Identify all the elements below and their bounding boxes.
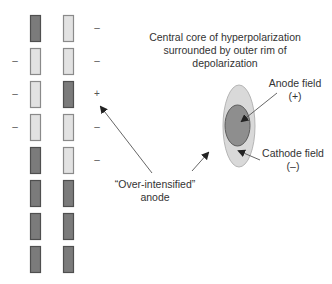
arrow-to-anode-field-ellipse xyxy=(192,153,208,171)
minus-sign-label: – xyxy=(92,23,102,33)
electrode-left-column-7-dark xyxy=(31,214,41,240)
electrode-left-column-5-dark xyxy=(31,148,41,174)
cathode-field-sign: (–) xyxy=(254,160,332,173)
electrode-left-column-6-dark xyxy=(31,181,41,207)
electrode-right-column-6-dark xyxy=(64,181,74,207)
electrode-left-column-3-light xyxy=(31,82,41,108)
core-description-label: Central core of hyperpolarization surrou… xyxy=(140,31,310,70)
over-intensified-line-2: anode xyxy=(105,191,205,204)
over-intensified-anode-label: “Over-intensified” anode xyxy=(105,178,205,204)
electrode-right-column-5-light xyxy=(64,148,74,174)
diagram-canvas: –––––+–– Central core of hyperpolarizati… xyxy=(0,0,332,284)
electrode-right-column-7-dark xyxy=(64,214,74,240)
minus-sign-label: – xyxy=(10,122,20,132)
electrode-right-column-4-light xyxy=(64,115,74,141)
cathode-field-label: Cathode field (–) xyxy=(254,147,332,173)
electrode-left-column-8-dark xyxy=(31,247,41,273)
minus-sign-label: – xyxy=(10,89,20,99)
electrode-right-column-2-light xyxy=(64,49,74,75)
electrode-left-column-2-light xyxy=(31,49,41,75)
electrode-right-column-3-dark xyxy=(64,82,74,108)
electrode-array xyxy=(31,16,74,273)
electrode-left-column-4-light xyxy=(31,115,41,141)
anode-field-sign: (+) xyxy=(260,90,330,103)
cathode-field-text: Cathode field xyxy=(254,147,332,160)
over-intensified-line-1: “Over-intensified” xyxy=(105,178,205,191)
electrode-right-column-8-dark xyxy=(64,247,74,273)
anode-field-label: Anode field (+) xyxy=(260,77,330,103)
minus-sign-label: – xyxy=(92,56,102,66)
minus-sign-label: – xyxy=(92,155,102,165)
core-description-line-1: Central core of hyperpolarization xyxy=(140,31,310,44)
anode-field-inner-ellipse xyxy=(225,105,250,146)
core-description-line-2: surrounded by outer rim of xyxy=(140,44,310,57)
core-description-line-3: depolarization xyxy=(140,57,310,70)
arrow-to-anode-electrode xyxy=(101,107,152,173)
electrode-right-column-1-light xyxy=(64,16,74,42)
minus-sign-label: – xyxy=(10,56,20,66)
electrode-left-column-1-dark xyxy=(31,16,41,42)
anode-field-text: Anode field xyxy=(260,77,330,90)
minus-sign-label: – xyxy=(92,122,102,132)
plus-sign-label: + xyxy=(92,89,102,99)
